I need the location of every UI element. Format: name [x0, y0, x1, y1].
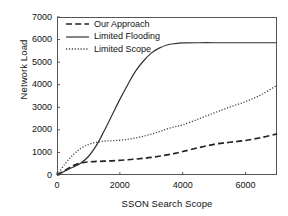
series-paths — [57, 43, 277, 175]
dotted-line-key — [66, 45, 89, 53]
legend-label: Limited Scope — [94, 45, 151, 54]
legend-item: Limited Flooding — [66, 32, 160, 42]
chart-figure: Network Load SSON Search Scope 010002000… — [0, 0, 288, 216]
legend-label: Limited Flooding — [94, 32, 160, 41]
legend: Our ApproachLimited FloodingLimited Scop… — [66, 19, 160, 54]
series-line — [57, 85, 277, 175]
dashed-line-key — [66, 20, 89, 28]
solid-line-key — [66, 33, 89, 41]
legend-item: Our Approach — [66, 19, 160, 29]
legend-label: Our Approach — [94, 20, 150, 29]
legend-item: Limited Scope — [66, 44, 160, 54]
